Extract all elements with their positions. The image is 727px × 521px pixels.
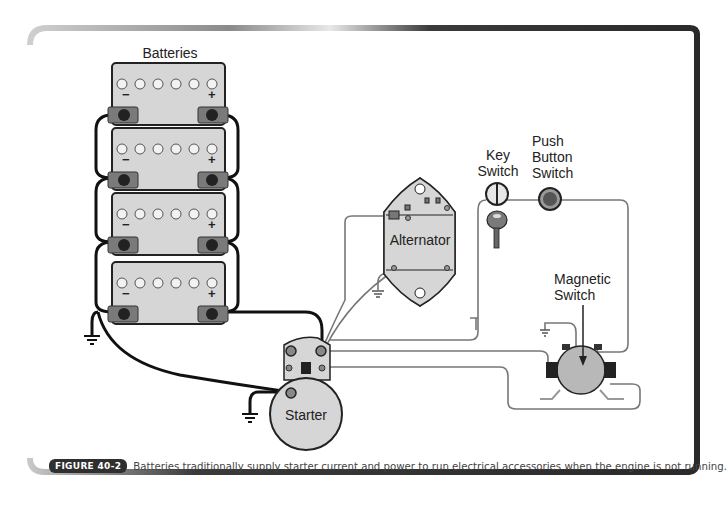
ground-icon xyxy=(372,291,384,297)
svg-text:+: + xyxy=(208,217,216,232)
ground-icon xyxy=(242,414,258,422)
battery-3: − + xyxy=(108,193,228,255)
starter xyxy=(270,337,342,450)
svg-text:−: − xyxy=(122,217,130,232)
label-key-switch-line1: Key xyxy=(474,147,522,163)
battery-stack: − + − + − + xyxy=(108,63,228,324)
figure-caption: FIGURE 40-2 Batteries traditionally supp… xyxy=(49,459,727,473)
label-push-button-line1: Push xyxy=(532,133,582,149)
label-alternator: Alternator xyxy=(380,232,460,248)
battery-1: − + xyxy=(108,63,228,125)
battery-2: − + xyxy=(108,128,228,190)
svg-text:−: − xyxy=(122,152,130,167)
svg-text:−: − xyxy=(122,87,130,102)
svg-text:+: + xyxy=(208,152,216,167)
label-magnetic-switch-line1: Magnetic xyxy=(554,271,614,287)
label-push-button-switch: Push Button Switch xyxy=(532,133,582,181)
svg-text:+: + xyxy=(208,87,216,102)
push-button-switch xyxy=(539,188,561,210)
label-magnetic-switch: Magnetic Switch xyxy=(554,271,614,303)
label-push-button-line3: Switch xyxy=(532,165,582,181)
label-magnetic-switch-line2: Switch xyxy=(554,287,614,303)
svg-text:−: − xyxy=(122,286,130,301)
battery-4: − + xyxy=(108,262,228,324)
figure-caption-text: Batteries traditionally supply starter c… xyxy=(133,461,727,472)
figure-number-badge: FIGURE 40-2 xyxy=(49,459,127,473)
label-key-switch-line2: Switch xyxy=(474,163,522,179)
label-push-button-line2: Button xyxy=(532,149,582,165)
label-starter: Starter xyxy=(276,407,336,423)
key-switch xyxy=(486,183,508,248)
label-key-switch: Key Switch xyxy=(474,147,522,179)
ground-icon xyxy=(84,336,100,344)
label-batteries: Batteries xyxy=(140,45,200,61)
svg-text:+: + xyxy=(208,286,216,301)
ground-icon xyxy=(540,330,550,336)
